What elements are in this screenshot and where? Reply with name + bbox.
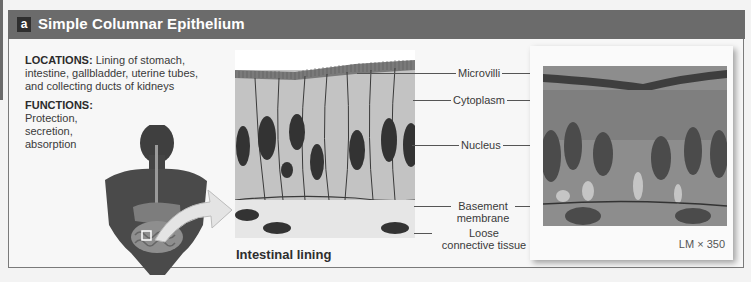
label-cytoplasm: Cytoplasm [451,94,507,106]
panel-header: a Simple Columnar Epithelium [8,10,745,39]
panel-title: Simple Columnar Epithelium [38,15,245,33]
label-basement-membrane: Basement membrane [451,200,515,224]
label-loose-connective-tissue: Loose connective tissue [432,227,536,251]
microvilli-leader-line [357,73,537,74]
functions-text: Protection, secretion, absorption [25,112,100,151]
label-loose-line1: Loose [469,227,499,239]
label-nucleus: Nucleus [459,139,503,151]
columnar-cells-diagram [235,50,415,238]
zoom-arrow-icon [150,180,235,245]
locations-label: LOCATIONS: [25,54,93,66]
magnification-label: LM × 350 [679,238,725,250]
label-basement-line2: membrane [457,212,510,224]
locations-block: LOCATIONS: Lining of stomach, intestine,… [25,54,205,93]
page-edge-stripe [0,0,3,100]
label-basement-line1: Basement [458,200,508,212]
functions-label: FUNCTIONS: [25,99,93,111]
micrograph-frame: LM × 350 [530,46,733,260]
label-loose-line2: connective tissue [442,239,526,251]
light-micrograph [543,66,727,226]
panel-letter-badge: a [17,17,31,32]
diagram-caption: Intestinal lining [236,247,331,262]
label-microvilli: Microvilli [456,67,502,79]
